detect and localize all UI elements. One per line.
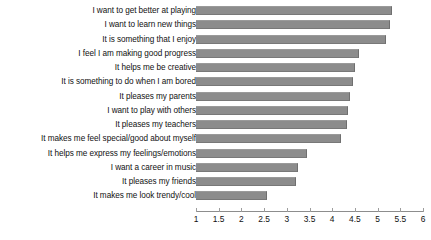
- bar: [196, 149, 307, 158]
- bar: [196, 163, 298, 172]
- bar-track: [196, 77, 353, 86]
- category-label: It pleases my parents: [0, 90, 196, 103]
- category-label: I feel I am making good progress: [0, 47, 196, 60]
- chart-row: It pleases my friends: [0, 175, 431, 188]
- chart-row: I want to learn new things: [0, 18, 431, 31]
- bar-track: [196, 163, 298, 172]
- plot-area: I want to get better at playingI want to…: [0, 0, 431, 240]
- chart-row: I want to play with others: [0, 104, 431, 117]
- chart-row: It is something to do when I am bored: [0, 75, 431, 88]
- axis-tick: [196, 208, 197, 212]
- axis-tick: [219, 208, 220, 212]
- chart-row: It helps me express my feelings/emotions: [0, 147, 431, 160]
- axis-tick: [287, 208, 288, 212]
- chart-row: It is something that I enjoy: [0, 33, 431, 46]
- bar-track: [196, 92, 350, 101]
- bar: [196, 191, 267, 200]
- axis-tick: [378, 208, 379, 212]
- chart-row: It helps me be creative: [0, 61, 431, 74]
- bar: [196, 77, 353, 86]
- axis-tick: [355, 208, 356, 212]
- bar: [196, 6, 392, 15]
- chart-row: It pleases my teachers: [0, 118, 431, 131]
- category-label: I want to play with others: [0, 104, 196, 117]
- bar-track: [196, 63, 355, 72]
- axis-tick: [423, 208, 424, 212]
- category-label: It makes me feel special/good about myse…: [0, 132, 196, 145]
- bar-track: [196, 177, 296, 186]
- category-label: It is something to do when I am bored: [0, 75, 196, 88]
- bar: [196, 120, 347, 129]
- axis-tick-label: 6: [408, 214, 431, 225]
- chart-row: I want a career in music: [0, 161, 431, 174]
- bar: [196, 134, 341, 143]
- category-label: It pleases my friends: [0, 175, 196, 188]
- bar: [196, 106, 348, 115]
- chart-row: It pleases my parents: [0, 90, 431, 103]
- bar-track: [196, 35, 386, 44]
- chart-row: It makes me feel special/good about myse…: [0, 132, 431, 145]
- bar: [196, 92, 350, 101]
- category-label: I want to learn new things: [0, 18, 196, 31]
- axis-tick: [241, 208, 242, 212]
- chart-row: I feel I am making good progress: [0, 47, 431, 60]
- chart-row: It makes me look trendy/cool: [0, 189, 431, 202]
- bar-track: [196, 49, 359, 58]
- category-label: It helps me express my feelings/emotions: [0, 147, 196, 160]
- bar-track: [196, 120, 347, 129]
- bar-track: [196, 191, 267, 200]
- category-label: I want to get better at playing: [0, 4, 196, 17]
- bar: [196, 20, 390, 29]
- bar-chart: I want to get better at playingI want to…: [0, 0, 431, 240]
- category-label: It helps me be creative: [0, 61, 196, 74]
- category-label: It makes me look trendy/cool: [0, 189, 196, 202]
- category-label: It pleases my teachers: [0, 118, 196, 131]
- category-label: It is something that I enjoy: [0, 33, 196, 46]
- bar-track: [196, 149, 307, 158]
- chart-row: I want to get better at playing: [0, 4, 431, 17]
- axis-tick: [310, 208, 311, 212]
- bar: [196, 49, 359, 58]
- axis-tick: [400, 208, 401, 212]
- bar-track: [196, 20, 390, 29]
- axis-tick: [264, 208, 265, 212]
- category-label: I want a career in music: [0, 161, 196, 174]
- bar: [196, 35, 386, 44]
- bar-track: [196, 134, 341, 143]
- bar-track: [196, 106, 348, 115]
- bar-track: [196, 6, 392, 15]
- bar: [196, 63, 355, 72]
- axis-tick: [332, 208, 333, 212]
- bar: [196, 177, 296, 186]
